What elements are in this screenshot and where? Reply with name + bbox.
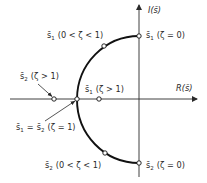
point-s1-zeta0 <box>137 34 141 38</box>
svg-text:s̄1=s̄2(ζ = 1): s̄1=s̄2(ζ = 1) <box>16 122 76 133</box>
leader-s2-overdamped <box>38 84 52 97</box>
svg-text:s̄2(ζ = 0): s̄2(ζ = 0) <box>146 160 185 171</box>
real-axis-label: R(s̄) <box>176 83 192 93</box>
label-s2-zeta0: s̄2(ζ = 0) <box>146 160 185 171</box>
svg-text:s̄2(0 < ζ < 1): s̄2(0 < ζ < 1) <box>45 160 101 171</box>
leader-double-root <box>45 101 75 121</box>
label-s2-overdamped: s̄2(ζ > 1) <box>20 71 59 82</box>
point-s1-underdamped <box>102 44 106 48</box>
svg-text:I(s̄): I(s̄) <box>148 5 161 15</box>
svg-text:s̄1(ζ > 1): s̄1(ζ > 1) <box>85 84 124 95</box>
point-s1-overdamped <box>97 97 101 101</box>
svg-text:s̄2(ζ > 1): s̄2(ζ > 1) <box>20 71 59 82</box>
svg-text:s̄1(0 < ζ < 1): s̄1(0 < ζ < 1) <box>47 30 103 41</box>
svg-text:s̄1(ζ = 0): s̄1(ζ = 0) <box>146 30 185 41</box>
point-s2-underdamped <box>103 151 107 155</box>
label-s1-overdamped: s̄1(ζ > 1) <box>85 84 124 95</box>
imag-axis-label: I(s̄) <box>148 5 161 15</box>
root-locus-diagram: I(s̄) R(s̄) s̄1(ζ = 0) s̄1(0 < ζ < 1) s̄… <box>0 0 207 183</box>
label-s2-underdamped: s̄2(0 < ζ < 1) <box>45 160 101 171</box>
label-s1-zeta0: s̄1(ζ = 0) <box>146 30 185 41</box>
svg-text:R(s̄): R(s̄) <box>176 83 192 93</box>
point-s2-zeta0 <box>137 161 141 165</box>
label-s1-underdamped: s̄1(0 < ζ < 1) <box>47 30 103 41</box>
label-double-root: s̄1=s̄2(ζ = 1) <box>16 122 76 133</box>
point-double-root <box>75 97 79 101</box>
point-s2-overdamped <box>52 97 56 101</box>
root-locus-arc <box>77 36 139 163</box>
